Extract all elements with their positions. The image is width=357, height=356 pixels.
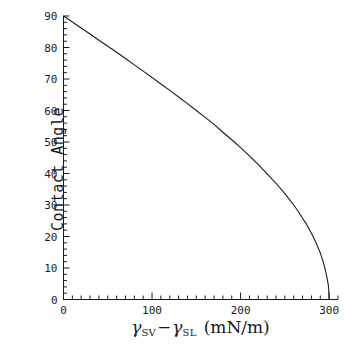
x-tick-label: 100 xyxy=(142,304,162,317)
x-axis-minor-ticks xyxy=(72,296,338,300)
y-tick-label: 40 xyxy=(44,168,57,181)
y-tick-label: 90 xyxy=(44,10,57,23)
y-axis-minor-ticks xyxy=(64,22,68,293)
x-tick-label: 0 xyxy=(60,304,67,317)
y-axis-major-ticks xyxy=(64,16,70,300)
y-tick-label: 20 xyxy=(44,231,57,244)
y-tick-label: 80 xyxy=(44,42,57,55)
y-tick-label: 60 xyxy=(44,105,57,118)
x-tick-label: 300 xyxy=(319,304,339,317)
contact-angle-curve xyxy=(64,16,330,300)
figure-canvas: 0102030405060708090 0100200300 Contact A… xyxy=(0,0,357,356)
y-axis-tick-labels: 0102030405060708090 xyxy=(44,10,57,307)
y-tick-label: 0 xyxy=(51,294,58,307)
chart-plot-area: 0102030405060708090 0100200300 xyxy=(0,0,357,356)
y-tick-label: 30 xyxy=(44,199,57,212)
x-axis-tick-labels: 0100200300 xyxy=(60,304,339,317)
y-tick-label: 10 xyxy=(44,262,57,275)
axis-spines xyxy=(63,16,338,300)
y-tick-label: 70 xyxy=(44,73,57,86)
x-tick-label: 200 xyxy=(231,304,251,317)
y-tick-label: 50 xyxy=(44,136,57,149)
